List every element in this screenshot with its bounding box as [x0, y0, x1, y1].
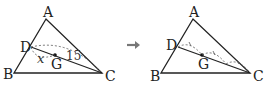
left-label-g: G: [51, 56, 62, 72]
right-label-c: C: [253, 68, 264, 84]
right-triangle-figure: A D B C G: [150, 4, 264, 84]
right-label-g: G: [198, 56, 209, 72]
right-arc-1: [178, 45, 202, 55]
transform-arrow-icon: [127, 41, 140, 49]
left-label-b: B: [3, 66, 13, 82]
left-label-x: x: [37, 51, 45, 66]
geometry-figure: A D B C G x 15 A D B C G: [0, 0, 270, 90]
right-label-a: A: [188, 4, 200, 20]
left-label-d: D: [20, 39, 31, 55]
left-triangle-figure: A D B C G x 15: [3, 4, 116, 84]
left-label-15: 15: [66, 49, 81, 63]
right-label-d: D: [166, 37, 177, 53]
left-label-a: A: [42, 4, 54, 20]
right-tick-2: [213, 51, 215, 55]
right-median-cd: [178, 47, 250, 73]
left-label-c: C: [105, 68, 116, 84]
right-label-b: B: [150, 68, 160, 84]
